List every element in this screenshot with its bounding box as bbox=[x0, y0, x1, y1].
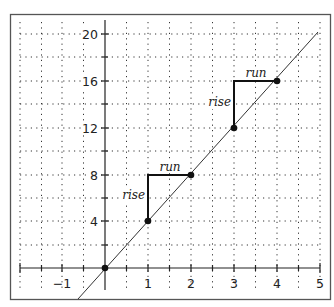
point-3-12 bbox=[231, 125, 238, 132]
rise-label-1: rise bbox=[122, 188, 145, 202]
vertical-gridlines bbox=[20, 22, 320, 290]
x-tick-label: 4 bbox=[273, 276, 281, 291]
y-tick-label: 8 bbox=[90, 168, 98, 183]
run-label-2: run bbox=[245, 66, 266, 80]
point-2-8 bbox=[188, 172, 195, 179]
run-label-1: run bbox=[159, 160, 180, 174]
point-1-4 bbox=[145, 218, 152, 225]
x-tick-label: −1 bbox=[53, 276, 71, 291]
line-y-equals-4x bbox=[78, 32, 318, 299]
x-tick-labels: −1 1 2 3 4 5 bbox=[53, 276, 324, 291]
x-tick-label: 1 bbox=[144, 276, 152, 291]
rise-run-bracket-2 bbox=[234, 81, 277, 128]
chart: −1 1 2 3 4 5 4 8 12 16 20 rise run rise … bbox=[0, 0, 334, 307]
y-tick-label: 12 bbox=[82, 121, 98, 136]
y-tick-label: 16 bbox=[82, 74, 98, 89]
point-0-0 bbox=[102, 265, 109, 272]
x-tick-label: 2 bbox=[187, 276, 195, 291]
point-4-16 bbox=[274, 78, 281, 85]
x-tick-label: 5 bbox=[316, 276, 324, 291]
rise-label-2: rise bbox=[208, 95, 231, 109]
y-tick-label: 4 bbox=[90, 214, 98, 229]
y-tick-label: 20 bbox=[82, 27, 98, 42]
x-tick-label: 3 bbox=[230, 276, 238, 291]
